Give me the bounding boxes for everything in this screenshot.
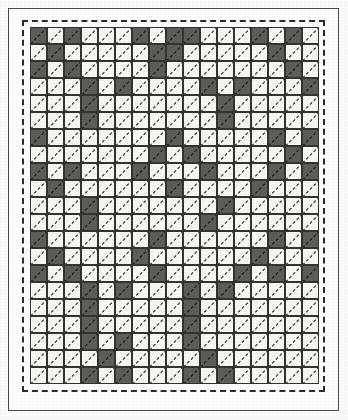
quilt-patch [47, 214, 64, 231]
quilt-patch [81, 44, 98, 61]
quilt-patch [47, 163, 64, 180]
quilt-patch [217, 78, 234, 95]
diagonal-stitch-icon [251, 333, 268, 350]
quilt-patch [251, 367, 268, 384]
quilt-patch [268, 333, 285, 350]
diagonal-stitch-icon [81, 248, 98, 265]
quilt-patch [166, 146, 183, 163]
quilt-patch [268, 197, 285, 214]
quilt-patch [149, 350, 166, 367]
diagonal-stitch-icon [149, 316, 166, 333]
diagonal-stitch-icon [81, 265, 98, 282]
quilt-patch [200, 78, 217, 95]
diagonal-stitch-icon [302, 180, 319, 197]
diagonal-stitch-icon [81, 367, 98, 384]
quilt-patch [47, 282, 64, 299]
diagonal-stitch-icon [98, 231, 115, 248]
quilt-patch [234, 333, 251, 350]
diagonal-stitch-icon [217, 78, 234, 95]
diagonal-stitch-icon [98, 163, 115, 180]
quilt-patch [302, 180, 319, 197]
quilt-patch [132, 180, 149, 197]
diagonal-stitch-icon [149, 95, 166, 112]
diagonal-stitch-icon [183, 299, 200, 316]
diagonal-stitch-icon [183, 333, 200, 350]
diagonal-stitch-icon [115, 78, 132, 95]
diagonal-stitch-icon [200, 61, 217, 78]
diagonal-stitch-icon [217, 282, 234, 299]
diagonal-stitch-icon [166, 27, 183, 44]
diagonal-stitch-icon [183, 282, 200, 299]
quilt-patch [217, 146, 234, 163]
quilt-patch [132, 316, 149, 333]
diagonal-stitch-icon [285, 95, 302, 112]
diagonal-stitch-icon [200, 129, 217, 146]
quilt-patch [234, 214, 251, 231]
quilt-patch [115, 78, 132, 95]
diagonal-stitch-icon [268, 146, 285, 163]
diagonal-stitch-icon [183, 44, 200, 61]
quilt-patch [217, 27, 234, 44]
quilt-patch [251, 299, 268, 316]
diagonal-stitch-icon [200, 95, 217, 112]
quilt-patch [183, 95, 200, 112]
quilt-patch [200, 61, 217, 78]
diagonal-stitch-icon [166, 316, 183, 333]
diagonal-stitch-icon [302, 197, 319, 214]
diagonal-stitch-icon [98, 112, 115, 129]
diagonal-stitch-icon [166, 197, 183, 214]
diagonal-stitch-icon [200, 299, 217, 316]
quilt-patch [217, 197, 234, 214]
diagonal-stitch-icon [217, 27, 234, 44]
diagonal-stitch-icon [149, 333, 166, 350]
diagonal-stitch-icon [234, 367, 251, 384]
diagonal-stitch-icon [64, 248, 81, 265]
quilt-patch [64, 27, 81, 44]
quilt-patch [64, 197, 81, 214]
quilt-patch [217, 282, 234, 299]
diagonal-stitch-icon [302, 78, 319, 95]
quilt-patch [64, 180, 81, 197]
quilt-patch [64, 350, 81, 367]
diagonal-stitch-icon [166, 367, 183, 384]
diagonal-stitch-icon [200, 265, 217, 282]
diagonal-stitch-icon [251, 112, 268, 129]
quilt-patch [115, 112, 132, 129]
quilt-patch [149, 163, 166, 180]
diagonal-stitch-icon [200, 146, 217, 163]
quilt-patch [47, 299, 64, 316]
diagonal-stitch-icon [81, 299, 98, 316]
quilt-patch [30, 180, 47, 197]
quilt-patch [268, 350, 285, 367]
diagonal-stitch-icon [166, 78, 183, 95]
quilt-patch [81, 163, 98, 180]
quilt-patch [200, 163, 217, 180]
diagonal-stitch-icon [98, 61, 115, 78]
diagonal-stitch-icon [132, 231, 149, 248]
quilt-patch [285, 112, 302, 129]
quilt-patch [302, 78, 319, 95]
quilt-patch [115, 282, 132, 299]
quilt-patch [302, 146, 319, 163]
diagonal-stitch-icon [285, 78, 302, 95]
quilt-patch [115, 265, 132, 282]
quilt-patch [302, 282, 319, 299]
quilt-patch [64, 282, 81, 299]
diagonal-stitch-icon [149, 129, 166, 146]
quilt-patch [64, 163, 81, 180]
quilt-patch [251, 44, 268, 61]
diagonal-stitch-icon [268, 299, 285, 316]
quilt-patch [132, 95, 149, 112]
diagonal-stitch-icon [285, 350, 302, 367]
quilt-patch [183, 299, 200, 316]
quilt-patch [149, 112, 166, 129]
quilt-patch [234, 95, 251, 112]
diagonal-stitch-icon [30, 367, 47, 384]
quilt-patch [149, 299, 166, 316]
quilt-patch [234, 316, 251, 333]
diagonal-stitch-icon [30, 163, 47, 180]
diagonal-stitch-icon [98, 214, 115, 231]
diagonal-stitch-icon [200, 180, 217, 197]
diagonal-stitch-icon [251, 248, 268, 265]
quilt-patch [166, 112, 183, 129]
